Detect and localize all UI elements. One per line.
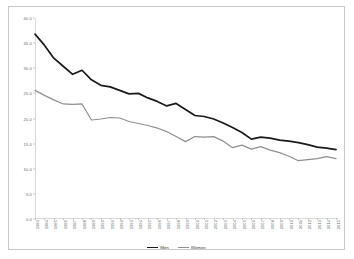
- y-axis-tick-label: 0.0: [26, 217, 32, 222]
- y-axis-tick-label: 15.0: [23, 141, 32, 146]
- x-axis-tick-mark: [308, 218, 309, 220]
- x-axis-tick-mark: [261, 218, 262, 220]
- x-axis-tick-mark: [251, 218, 252, 220]
- x-axis-tick-label: 1985: [53, 220, 58, 229]
- x-axis-tick-label: 2012: [307, 220, 312, 229]
- x-axis-tick-mark: [101, 218, 102, 220]
- x-axis-tick-label: 2003: [222, 220, 227, 229]
- x-axis-tick-label: 1992: [119, 220, 124, 229]
- legend-label: Men: [160, 245, 169, 250]
- y-axis-tick-label: 30.0: [23, 66, 32, 71]
- legend-item-women[interactable]: Women: [178, 245, 206, 250]
- x-axis-tick-label: 2015: [335, 220, 340, 229]
- x-axis-tick-mark: [270, 218, 271, 220]
- series-line-men: [35, 34, 336, 150]
- x-axis-tick-label: 1998: [175, 220, 180, 229]
- y-axis-tick-label: 40.0: [23, 16, 32, 21]
- x-axis-tick-label: 1994: [138, 220, 143, 229]
- x-axis-tick-label: 1995: [147, 220, 152, 229]
- x-axis-tick-label: 2011: [297, 220, 302, 229]
- x-axis-tick-label: 2002: [213, 220, 218, 229]
- x-axis-tick-label: 1993: [128, 220, 133, 229]
- x-axis-tick-mark: [167, 218, 168, 220]
- legend-label: Women: [191, 245, 206, 250]
- plot-area: 0.05.010.015.020.025.030.035.040.0: [35, 18, 338, 219]
- x-axis-tick-mark: [186, 218, 187, 220]
- x-axis-tick-mark: [129, 218, 130, 220]
- x-axis-tick-mark: [298, 218, 299, 220]
- x-axis-tick-label: 2007: [260, 220, 265, 229]
- x-axis-tick-mark: [336, 218, 337, 220]
- x-axis-tick-label: 2000: [194, 220, 199, 229]
- x-axis-tick-mark: [138, 218, 139, 220]
- x-axis-tick-label: 2006: [250, 220, 255, 229]
- x-axis-tick-mark: [63, 218, 64, 220]
- series-line-women: [35, 90, 336, 160]
- x-axis-tick-mark: [223, 218, 224, 220]
- x-axis-tick-mark: [233, 218, 234, 220]
- x-axis-tick-mark: [242, 218, 243, 220]
- chart-figure: 0.05.010.015.020.025.030.035.040.0 19831…: [8, 6, 345, 250]
- x-axis-tick-mark: [157, 218, 158, 220]
- x-axis-tick-mark: [35, 218, 36, 220]
- x-axis-tick-label: 1996: [156, 220, 161, 229]
- x-axis-tick-label: 1983: [34, 220, 39, 229]
- x-axis-tick-mark: [176, 218, 177, 220]
- x-axis-tick-label: 1987: [72, 220, 77, 229]
- x-axis-tick-label: 2013: [316, 220, 321, 229]
- x-axis-tick-label: 2014: [326, 220, 331, 229]
- x-axis-tick-mark: [120, 218, 121, 220]
- y-axis-tick-label: 5.0: [26, 191, 32, 196]
- x-axis-tick-label: 2009: [279, 220, 284, 229]
- x-axis-tick-mark: [214, 218, 215, 220]
- x-axis-tick-mark: [148, 218, 149, 220]
- x-axis-tick-mark: [82, 218, 83, 220]
- chart-legend: MenWomen: [9, 245, 344, 250]
- x-axis-tick-mark: [110, 218, 111, 220]
- x-axis-tick-mark: [327, 218, 328, 220]
- x-axis-tick-label: 2008: [269, 220, 274, 229]
- x-axis-tick-mark: [280, 218, 281, 220]
- x-axis-tick-label: 1997: [166, 220, 171, 229]
- x-axis-tick-label: 1986: [62, 220, 67, 229]
- x-axis-tick-label: 1989: [91, 220, 96, 229]
- legend-swatch-icon: [147, 247, 158, 249]
- y-axis-tick-label: 20.0: [23, 116, 32, 121]
- x-axis-tick-mark: [317, 218, 318, 220]
- x-axis-tick-label: 1988: [81, 220, 86, 229]
- x-axis-tick-label: 2001: [203, 220, 208, 229]
- x-axis-tick-mark: [54, 218, 55, 220]
- x-axis-tick-mark: [195, 218, 196, 220]
- x-axis-tick-mark: [73, 218, 74, 220]
- x-axis-tick-mark: [289, 218, 290, 220]
- x-axis-tick-label: 1999: [185, 220, 190, 229]
- legend-item-men[interactable]: Men: [147, 245, 169, 250]
- x-axis-tick-label: 1990: [100, 220, 105, 229]
- legend-swatch-icon: [178, 247, 189, 248]
- x-axis-tick-label: 1991: [109, 220, 114, 229]
- y-axis-tick-label: 10.0: [23, 166, 32, 171]
- x-axis-tick-mark: [44, 218, 45, 220]
- x-axis-tick-mark: [204, 218, 205, 220]
- y-axis-tick-label: 25.0: [23, 91, 32, 96]
- x-axis-tick-mark: [91, 218, 92, 220]
- x-axis-tick-label: 2010: [288, 220, 293, 229]
- x-axis: 1983198419851986198719881989199019911992…: [35, 220, 338, 245]
- y-axis-tick-label: 35.0: [23, 41, 32, 46]
- x-axis-tick-label: 2005: [241, 220, 246, 229]
- series-layer: [35, 18, 338, 219]
- x-axis-tick-label: 1984: [44, 220, 49, 229]
- x-axis-tick-label: 2004: [232, 220, 237, 229]
